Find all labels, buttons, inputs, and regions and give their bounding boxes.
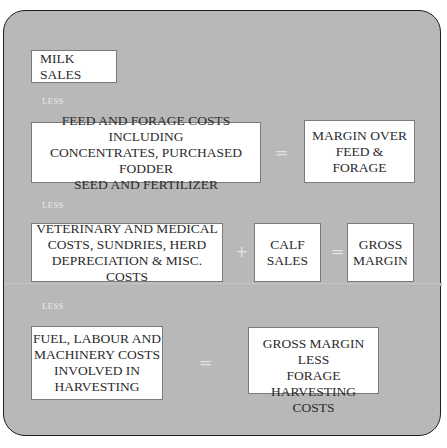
gross-margin-box: GROSS MARGIN (347, 223, 414, 282)
margin-over-feed-box: MARGIN OVER FEED & FORAGE (304, 120, 415, 183)
equals-operator: = (275, 143, 288, 162)
equals-operator: = (331, 242, 344, 261)
less-label: LESS (42, 301, 64, 311)
less-label: LESS (42, 200, 64, 210)
harvesting-costs-box: FUEL, LABOUR AND MACHINERY COSTS INVOLVE… (31, 326, 163, 400)
less-label: LESS (42, 96, 64, 106)
equals-operator: = (199, 353, 212, 372)
milk-sales-box: MILK SALES (31, 50, 117, 83)
feed-forage-costs-box: FEED AND FORAGE COSTS INCLUDING CONCENTR… (31, 122, 261, 183)
calf-sales-box: CALF SALES (254, 223, 321, 282)
plus-operator: + (235, 242, 248, 261)
gross-margin-less-harvesting-box: GROSS MARGIN LESS FORAGE HARVESTING COST… (248, 327, 379, 394)
veterinary-costs-box: VETERINARY AND MEDICAL COSTS, SUNDRIES, … (31, 223, 223, 282)
